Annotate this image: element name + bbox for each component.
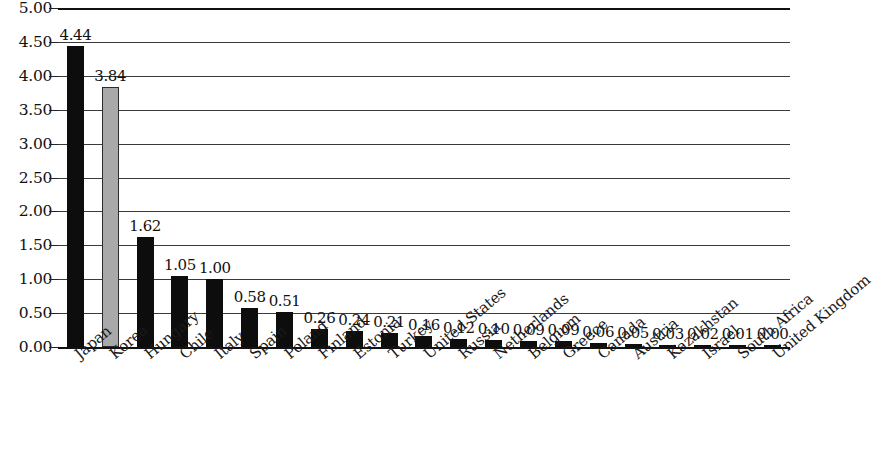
y-axis-tick (49, 76, 58, 77)
y-axis-tick (49, 178, 58, 179)
bar-value-label: 0.51 (269, 292, 301, 310)
bar-group: 0.12 (441, 8, 476, 347)
bar-group: 0.02 (685, 8, 720, 347)
plot-area: 4.443.841.621.051.000.580.510.260.240.21… (58, 8, 790, 347)
bar-group: 0.09 (511, 8, 546, 347)
bar-value-label: 1.62 (129, 217, 161, 235)
bar (102, 87, 119, 347)
y-axis-tick-label: 4.00 (19, 67, 52, 85)
y-axis-tick (49, 110, 58, 111)
bar-group: 0.51 (267, 8, 302, 347)
y-axis-tick-label: 0.50 (19, 304, 52, 322)
y-axis-tick (49, 144, 58, 145)
bar-series: 4.443.841.621.051.000.580.510.260.240.21… (58, 8, 790, 347)
bar-value-label: 3.84 (94, 67, 126, 85)
y-axis-tick (49, 245, 58, 246)
y-axis-tick-label: 3.00 (19, 135, 52, 153)
y-axis-tick (49, 313, 58, 314)
bar-group: 0.26 (302, 8, 337, 347)
bar-group: 1.00 (197, 8, 232, 347)
y-axis-tick-label: 5.00 (19, 0, 52, 17)
y-axis-tick-label: 1.00 (19, 270, 52, 288)
bar-value-label: 1.00 (199, 259, 231, 277)
bar-group: 0.03 (651, 8, 686, 347)
y-axis: 5.004.504.003.503.002.502.001.501.000.50… (0, 0, 52, 352)
bar (67, 46, 84, 347)
bar-group: 0.24 (337, 8, 372, 347)
y-axis-tick-label: 0.00 (19, 338, 52, 356)
bar-group: 1.05 (163, 8, 198, 347)
bar-group: 0.21 (372, 8, 407, 347)
y-axis-tick (49, 8, 58, 9)
bar-value-label: 0.58 (234, 288, 266, 306)
bar-group: 3.84 (93, 8, 128, 347)
y-axis-tick (49, 347, 58, 348)
bar-group: 0.16 (407, 8, 442, 347)
bar-group: 0.58 (232, 8, 267, 347)
bar-group: 0.06 (581, 8, 616, 347)
y-axis-tick-label: 2.50 (19, 169, 52, 187)
y-axis-tick (49, 211, 58, 212)
y-axis-tick (49, 279, 58, 280)
bar-group: 0.00 (755, 8, 790, 347)
y-axis-tick (49, 42, 58, 43)
bar-group: 4.44 (58, 8, 93, 347)
bar-group: 1.62 (128, 8, 163, 347)
bar-group: 0.05 (616, 8, 651, 347)
y-axis-tick-label: 1.50 (19, 236, 52, 254)
bar-value-label: 4.44 (60, 26, 92, 44)
y-axis-tick-label: 3.50 (19, 101, 52, 119)
bar-value-label: 1.05 (164, 256, 196, 274)
x-axis-category-labels: JapanKoreaHungaryChileItalySpainPolandFi… (58, 349, 790, 460)
y-axis-tick-label: 2.00 (19, 202, 52, 220)
y-axis-tick-label: 4.50 (19, 33, 52, 51)
